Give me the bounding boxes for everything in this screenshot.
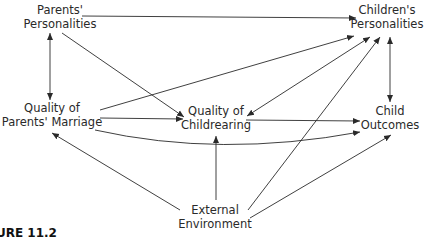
node-external-environment: External Environment — [178, 203, 251, 231]
node-label-line1: Quality of — [181, 104, 251, 118]
node-label-line2: Outcomes — [361, 118, 419, 132]
node-quality-childrearing: Quality of Childrearing — [181, 104, 251, 132]
edge-parents-personalities-to-childrens-personalities — [82, 16, 356, 18]
node-childrens-personalities: Children's Personalities — [351, 3, 424, 31]
node-label-line1: External — [178, 203, 251, 217]
edge-childrearing-to-child-outcomes — [246, 120, 360, 121]
figure-caption: URE 11.2 — [0, 226, 57, 239]
node-label-line1: Parents' — [24, 3, 97, 17]
node-label-line1: Child — [361, 104, 419, 118]
node-label-line2: Personalities — [351, 17, 424, 31]
node-label-line2: Environment — [178, 217, 251, 231]
node-label-line2: Parents' Marriage — [2, 115, 102, 129]
node-label-line2: Personalities — [24, 17, 97, 31]
node-label-line2: Childrearing — [181, 118, 251, 132]
edge-marriage-to-childrens-personalities — [100, 36, 354, 110]
node-child-outcomes: Child Outcomes — [361, 104, 419, 132]
node-label-line1: Children's — [351, 3, 424, 17]
node-quality-parents-marriage: Quality of Parents' Marriage — [2, 101, 102, 129]
edge-marriage-to-child-outcomes — [95, 130, 360, 145]
edge-environment-to-marriage — [52, 133, 180, 210]
edge-environment-to-child-outcomes — [250, 135, 391, 218]
edge-marriage-to-childrearing — [100, 118, 183, 119]
node-parents-personalities: Parents' Personalities — [24, 3, 97, 31]
node-label-line1: Quality of — [2, 101, 102, 115]
